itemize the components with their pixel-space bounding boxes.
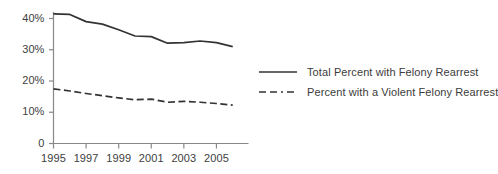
series-line-total-felony-rearrest — [54, 14, 233, 47]
y-axis-label-3: 30% — [0, 43, 45, 55]
legend-label-violent-felony-rearrest: Percent with a Violent Felony Rearrest — [307, 86, 498, 98]
legend-line-sample-dashed — [258, 86, 298, 98]
chart-legend: Total Percent with Felony Rearrest Perce… — [258, 62, 488, 102]
legend-label-total-felony-rearrest: Total Percent with Felony Rearrest — [307, 66, 479, 78]
y-axis-label-2: 20% — [0, 74, 45, 86]
legend-line-sample-solid — [258, 66, 298, 78]
y-axis-label-0: 0 — [0, 137, 45, 149]
legend-item-violent-felony-rearrest: Percent with a Violent Felony Rearrest — [258, 82, 488, 102]
x-axis-label-5: 2005 — [196, 152, 236, 164]
y-axis-label-1: 10% — [0, 105, 45, 117]
y-axis-label-4: 40% — [0, 12, 45, 24]
series-line-violent-felony-rearrest — [54, 89, 233, 105]
legend-item-total-felony-rearrest: Total Percent with Felony Rearrest — [258, 62, 488, 82]
